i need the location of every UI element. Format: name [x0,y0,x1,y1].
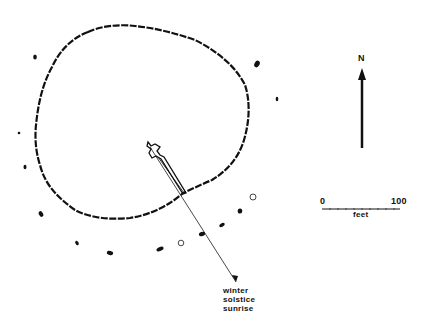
stone-circle [18,55,279,256]
scale-start-label: 0 [320,197,325,206]
scale-end-label: 100 [391,197,407,206]
annotation-winter-solstice-sunrise: winter solstice sunrise [223,286,255,313]
mound-outline [35,25,248,218]
north-label: N [358,54,365,63]
north-arrow [358,68,366,148]
site-plan: N 0 100 feet winter solstice sunrise [0,0,424,323]
passage-tomb [147,142,186,194]
scale-unit-label: feet [353,210,368,219]
solstice-alignment-line [150,147,236,282]
plan-drawing [0,0,424,323]
passage-inner [158,157,184,193]
